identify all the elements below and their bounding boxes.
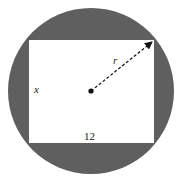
radius-label: r [113,54,118,66]
side-12-label: 12 [84,130,95,142]
side-x-label: x [33,83,39,95]
inscribed-rectangle-diagram: r x 12 [0,0,183,176]
center-dot [88,88,93,93]
